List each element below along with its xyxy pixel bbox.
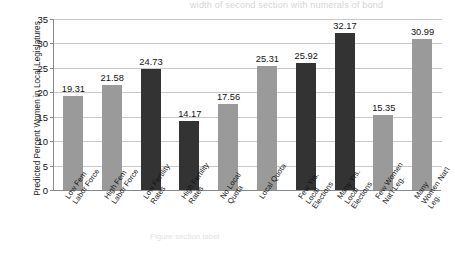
y-axis-tick-label: 0	[43, 185, 48, 196]
x-axis-label-slot: Low Fem Labor Force	[53, 193, 92, 279]
bar-chart: width of second section with numerals of…	[0, 0, 455, 279]
bar-value-label: 24.73	[139, 57, 162, 67]
y-axis-tick-label: 20	[37, 87, 48, 98]
faint-footer-text: Figure section label	[150, 232, 219, 241]
bar-value-label: 32.17	[333, 21, 356, 31]
x-axis-category-labels: Low Fem Labor ForceHigh Fem Labor ForceL…	[53, 193, 441, 279]
bar-value-label: 14.17	[178, 109, 201, 119]
y-axis-tick-label: 10	[37, 136, 48, 147]
x-axis-label-slot: Few Women Nat'l Leg.	[363, 193, 402, 279]
y-axis-tick	[50, 190, 54, 191]
x-axis-label-slot: Few Yrs. Local Elections	[286, 193, 325, 279]
y-axis-tick-label: 15	[37, 111, 48, 122]
y-axis-tick-label: 5	[43, 160, 48, 171]
x-axis-label-slot: High Fem Labor Force	[92, 193, 131, 279]
y-axis-tick-label: 30	[37, 38, 48, 49]
bar-value-label: 30.99	[411, 27, 434, 37]
y-axis-tick-label: 25	[37, 62, 48, 73]
bar-value-label: 25.92	[295, 51, 318, 61]
bar-value-label: 17.56	[217, 92, 240, 102]
y-axis-title: Predicted Percent Women in Local Legisla…	[33, 4, 42, 214]
bar-value-label: 25.31	[256, 54, 279, 64]
cut-off-header-text: width of second section with numerals of…	[190, 0, 452, 9]
bar-value-label: 19.31	[62, 84, 85, 94]
bar-value-label: 15.35	[372, 103, 395, 113]
x-axis-label-slot: Local Quota	[247, 193, 286, 279]
bar[interactable]	[412, 39, 432, 190]
y-axis-tick-label: 35	[37, 14, 48, 25]
x-axis-label-slot: Many Yrs. Local Elections	[325, 193, 364, 279]
bar-value-label: 21.58	[101, 73, 124, 83]
x-axis-label-slot: Many Women Nat'l Leg.	[402, 193, 441, 279]
